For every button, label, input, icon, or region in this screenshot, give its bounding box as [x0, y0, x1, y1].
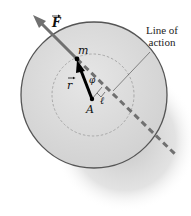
pivot-point: [90, 97, 94, 101]
angle-label: φ: [89, 76, 95, 85]
torque-diagram: F m r A φ ℓ Line of action: [0, 0, 191, 216]
force-label: F: [52, 17, 61, 29]
mass-point: [75, 57, 80, 62]
radius-label: r: [67, 80, 72, 91]
mass-label: m: [78, 45, 88, 56]
line-of-action-label: Line of action: [137, 24, 187, 48]
pivot-label: A: [86, 104, 94, 115]
lever-arm-label: ℓ: [100, 96, 104, 106]
